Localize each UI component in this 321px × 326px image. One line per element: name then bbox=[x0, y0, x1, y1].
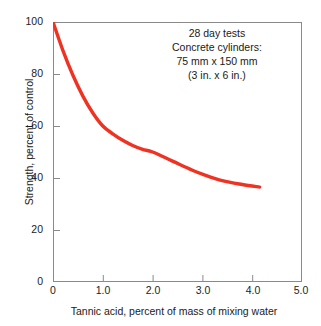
x-tick-label-2: 2.0 bbox=[138, 285, 168, 296]
x-tick-label-1: 1.0 bbox=[88, 285, 118, 296]
x-tick-label-4: 4.0 bbox=[238, 285, 268, 296]
x-axis-title: Tannic acid, percent of mass of mixing w… bbox=[34, 305, 314, 317]
x-tick-label-0: 0 bbox=[38, 285, 68, 296]
annotation-line-3: 75 mm x 150 mm bbox=[172, 54, 262, 68]
annotation-line-4: (3 in. x 6 in.) bbox=[172, 68, 262, 82]
y-tick-label-100: 100 bbox=[17, 16, 43, 27]
annotation-line-1: 28 day tests bbox=[172, 26, 262, 40]
x-tick-label-5: 5.0 bbox=[286, 285, 316, 296]
x-axis-ticks bbox=[54, 275, 302, 282]
chart-annotation: 28 day tests Concrete cylinders: 75 mm x… bbox=[172, 26, 262, 82]
y-axis-title: Strength, percent of control bbox=[23, 37, 35, 247]
y-axis-ticks bbox=[53, 23, 60, 282]
x-tick-label-3: 3.0 bbox=[188, 285, 218, 296]
chart-figure: 100 80 60 40 20 0 0 1.0 2.0 3.0 4.0 5.0 … bbox=[0, 0, 321, 326]
annotation-line-2: Concrete cylinders: bbox=[172, 40, 262, 54]
